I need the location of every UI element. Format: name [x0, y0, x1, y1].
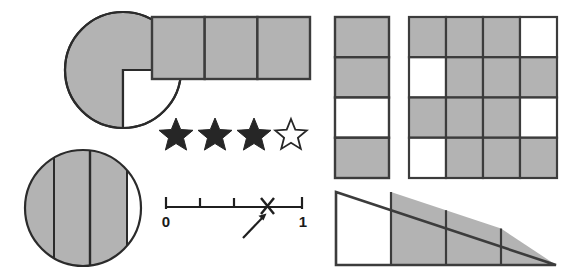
star-icon-filled-3 [237, 118, 271, 150]
number-line-label-start: 0 [162, 213, 170, 230]
grid-cell-r1c4 [520, 17, 557, 57]
star-icon-filled-2 [198, 118, 232, 150]
grid-cell-r4c3 [483, 138, 520, 178]
column-cell-1 [335, 17, 389, 57]
grid-four-by-four [409, 17, 557, 178]
column-cell-3 [335, 98, 389, 138]
grid-cell-r2c4 [520, 57, 557, 97]
triangle-strip-4-shaded [501, 229, 556, 266]
grid-cell-r1c1 [409, 17, 446, 57]
grid-cell-r3c3 [483, 98, 520, 138]
circle-four-vertical-strips [25, 150, 143, 266]
grid-cell-r3c2 [446, 98, 483, 138]
grid-cell-r3c1 [409, 98, 446, 138]
bar-cell-3 [257, 17, 310, 79]
column-cell-2 [335, 57, 389, 97]
grid-cell-r2c3 [483, 57, 520, 97]
vertical-column-four-cells [335, 17, 389, 178]
grid-cell-r4c1 [409, 138, 446, 178]
triangle-strip-2-shaded [391, 192, 446, 265]
star-rating-three-of-four [159, 118, 307, 150]
star-icon-filled-1 [159, 118, 193, 150]
pointer-arrow-icon [243, 214, 267, 239]
grid-cell-r2c1 [409, 57, 446, 97]
triangle-strip-1-unshaded [336, 192, 391, 265]
grid-cell-r4c4 [520, 138, 557, 178]
grid-cell-r4c2 [446, 138, 483, 178]
bar-cell-2 [205, 17, 258, 79]
number-line-three-quarters: 0 1 [162, 197, 307, 238]
fraction-figure-canvas: 0 1 [0, 0, 566, 280]
column-cell-4 [335, 138, 389, 178]
grid-cell-r1c2 [446, 17, 483, 57]
fraction-figure-svg: 0 1 [0, 0, 566, 280]
triangle-four-strips [336, 192, 556, 265]
star-icon-outline-4 [275, 119, 306, 149]
number-line-label-end: 1 [299, 213, 307, 230]
grid-cell-r2c2 [446, 57, 483, 97]
bar-model-three-cells [152, 17, 310, 79]
grid-cell-r3c4 [520, 98, 557, 138]
bar-cell-1 [152, 17, 205, 79]
grid-cell-r1c3 [483, 17, 520, 57]
